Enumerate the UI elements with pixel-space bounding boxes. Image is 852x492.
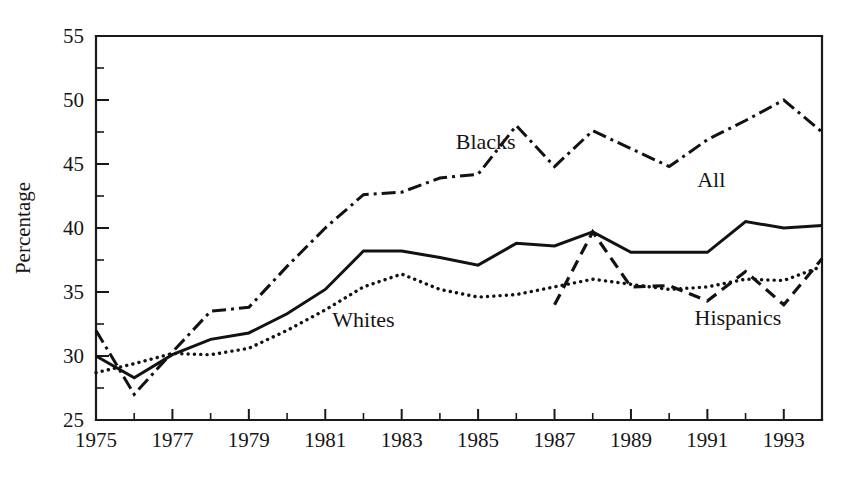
y-tick-label-50: 50 (63, 88, 84, 112)
y-axis-tick-labels: 25303540455055 (63, 24, 84, 432)
x-tick-label-1979: 1979 (228, 428, 270, 452)
x-tick-label-1985: 1985 (457, 428, 499, 452)
chart-page: 25303540455055 1975197719791981198319851… (0, 0, 852, 492)
y-tick-label-35: 35 (63, 280, 84, 304)
y-tick-label-30: 30 (63, 344, 84, 368)
x-tick-label-1981: 1981 (304, 428, 346, 452)
series-label-whites: Whites (332, 307, 394, 332)
x-axis-tick-labels: 1975197719791981198319851987198919911993 (75, 428, 805, 452)
plot-frame (96, 36, 822, 420)
series-label-all: All (697, 167, 725, 192)
y-tick-label-55: 55 (63, 24, 84, 48)
x-tick-label-1993: 1993 (763, 428, 805, 452)
y-tick-label-45: 45 (63, 152, 84, 176)
series-label-blacks: Blacks (456, 129, 516, 154)
x-tick-label-1983: 1983 (381, 428, 423, 452)
y-tick-label-40: 40 (63, 216, 84, 240)
y-axis-title: Percentage (11, 182, 35, 274)
x-tick-label-1989: 1989 (610, 428, 652, 452)
series-line-all (96, 222, 822, 378)
line-chart: 25303540455055 1975197719791981198319851… (0, 0, 852, 492)
x-tick-label-1975: 1975 (75, 428, 117, 452)
x-axis-ticks (96, 409, 822, 420)
x-tick-label-1977: 1977 (151, 428, 193, 452)
x-tick-label-1991: 1991 (686, 428, 728, 452)
x-tick-label-1987: 1987 (534, 428, 576, 452)
series-label-hispanics: Hispanics (695, 305, 782, 330)
series-line-hispanics (555, 232, 822, 305)
